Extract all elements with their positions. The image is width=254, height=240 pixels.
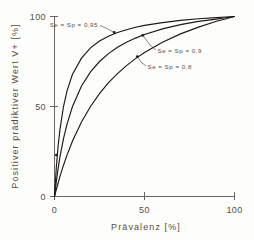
annotations-group: Se = Sp = 0,95 Se = Sp = 0,9 Se = Sp = 0…	[50, 21, 202, 70]
axes-group	[50, 16, 235, 200]
x-axis-title: Prävalenz [%]	[111, 222, 181, 232]
y-tick-label-50: 50	[35, 102, 46, 112]
x-tick-label-100: 100	[226, 205, 242, 215]
y-tick-label-100: 100	[30, 12, 46, 22]
x-tick-label-0: 0	[52, 205, 57, 215]
y-axis-title: Positiver prädiktiver Wert V+ [%]	[10, 23, 20, 188]
label-se-sp-08: Se = Sp = 0,8	[148, 63, 192, 70]
curve-se-sp-09	[55, 17, 235, 197]
y-tick-label-0: 0	[41, 192, 46, 202]
curve-se-sp-095	[55, 17, 235, 197]
marker-origin-point	[55, 154, 58, 157]
curve-se-sp-08	[55, 17, 235, 197]
chart-canvas: 100 50 0 0 50 100 Prävalenz [%] Positive…	[0, 0, 254, 240]
leader-se-sp-095	[100, 26, 114, 33]
curves-group	[55, 17, 235, 197]
label-se-sp-09: Se = Sp = 0,9	[158, 47, 202, 54]
label-se-sp-095: Se = Sp = 0,95	[50, 21, 98, 28]
leader-se-sp-09	[143, 35, 156, 50]
tick-labels: 100 50 0 0 50 100	[30, 12, 243, 215]
leader-se-sp-08	[137, 57, 146, 66]
chart-figure: 100 50 0 0 50 100 Prävalenz [%] Positive…	[0, 0, 254, 240]
x-tick-label-50: 50	[139, 205, 150, 215]
